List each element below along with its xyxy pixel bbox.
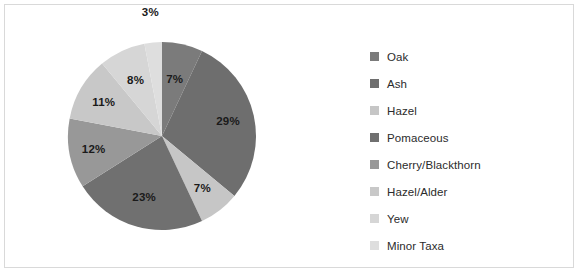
legend-item[interactable]: Minor Taxa — [370, 232, 570, 259]
pie-slice-group — [68, 42, 256, 230]
legend-swatch-icon — [370, 187, 379, 196]
legend-swatch-icon — [370, 214, 379, 223]
pie-plot-area: 7%29%7%23%12%11%8%3% — [5, 5, 355, 269]
chart-frame: 7%29%7%23%12%11%8%3% OakAshHazelPomaceou… — [4, 4, 574, 268]
pie-data-label: 7% — [166, 73, 183, 85]
pie-data-label: 11% — [92, 96, 115, 108]
legend-item-label: Ash — [387, 78, 407, 90]
chart-legend: OakAshHazelPomaceousCherry/BlackthornHaz… — [370, 43, 570, 259]
pie-data-label: 29% — [216, 115, 240, 127]
legend-swatch-icon — [370, 241, 379, 250]
pie-data-label: 3% — [142, 6, 159, 18]
pie-data-label: 8% — [127, 74, 144, 86]
legend-item[interactable]: Hazel — [370, 97, 570, 124]
legend-swatch-icon — [370, 133, 379, 142]
legend-swatch-icon — [370, 106, 379, 115]
pie-data-label: 23% — [132, 191, 156, 203]
pie-chart-graphic — [67, 41, 257, 231]
legend-swatch-icon — [370, 52, 379, 61]
legend-item-label: Hazel — [387, 105, 417, 117]
legend-item-label: Minor Taxa — [387, 240, 444, 252]
legend-swatch-icon — [370, 160, 379, 169]
legend-item-label: Pomaceous — [387, 132, 449, 144]
legend-item[interactable]: Cherry/Blackthorn — [370, 151, 570, 178]
legend-swatch-icon — [370, 79, 379, 88]
legend-item-label: Cherry/Blackthorn — [387, 159, 481, 171]
legend-item[interactable]: Pomaceous — [370, 124, 570, 151]
legend-item[interactable]: Oak — [370, 43, 570, 70]
pie-data-label: 7% — [194, 182, 211, 194]
legend-item-label: Yew — [387, 213, 409, 225]
legend-item-label: Hazel/Alder — [387, 186, 448, 198]
legend-item[interactable]: Hazel/Alder — [370, 178, 570, 205]
legend-item-label: Oak — [387, 51, 408, 63]
pie-data-label: 12% — [82, 143, 106, 155]
legend-item[interactable]: Yew — [370, 205, 570, 232]
legend-item[interactable]: Ash — [370, 70, 570, 97]
